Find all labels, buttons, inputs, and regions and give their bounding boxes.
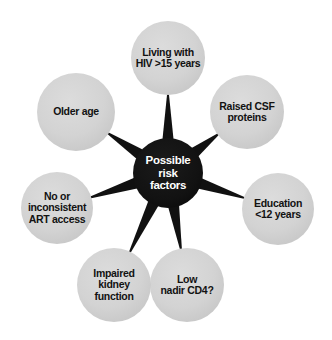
- spoke-education-under-12-years: [198, 178, 246, 199]
- spoke-impaired-kidney-function: [129, 200, 159, 253]
- satellite-circle-impaired-kidney-function[interactable]: [77, 248, 151, 322]
- spoke-living-with-hiv: [162, 94, 173, 141]
- spoke-no-or-inconsistent-art-access: [90, 178, 139, 199]
- satellite-circle-raised-csf-proteins[interactable]: [210, 75, 284, 149]
- satellite-circle-older-age[interactable]: [37, 73, 115, 151]
- satellite-circle-no-or-inconsistent-art-access[interactable]: [21, 172, 93, 244]
- satellite-circle-living-with-hiv[interactable]: [131, 21, 205, 95]
- diagram-canvas: [0, 0, 332, 340]
- satellite-circle-education-under-12-years[interactable]: [242, 173, 314, 245]
- satellite-circle-low-nadir-cd4[interactable]: [150, 248, 224, 322]
- hub-circle-group: [133, 138, 203, 208]
- spoke-low-nadir-cd4: [168, 205, 182, 251]
- hub-circle[interactable]: [133, 138, 203, 208]
- risk-factors-diagram: Living with HIV >15 years Raised CSF pro…: [0, 0, 332, 340]
